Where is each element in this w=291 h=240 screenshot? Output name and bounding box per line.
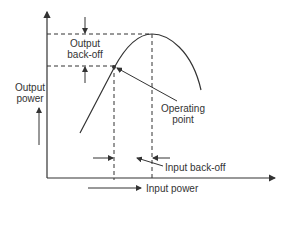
- output-power-label-line1: Output: [12, 82, 48, 93]
- operating-point-label-line2: point: [158, 114, 208, 125]
- input-power-label: Input power: [146, 183, 198, 194]
- operating-point-dot: [112, 65, 116, 69]
- operating-point-arrow: [117, 68, 177, 101]
- output-backoff-label-line1: Output: [64, 38, 106, 49]
- input-backoff-label-arrow: [137, 158, 163, 166]
- operating-point-label: Operating point: [158, 103, 208, 125]
- input-backoff-label: Input back-off: [165, 162, 225, 173]
- output-power-label-line2: power: [12, 93, 48, 104]
- output-backoff-label-line2: back-off: [64, 49, 106, 60]
- operating-point-label-line1: Operating: [158, 103, 208, 114]
- output-power-label: Output power: [12, 82, 48, 104]
- output-backoff-label: Output back-off: [64, 38, 106, 60]
